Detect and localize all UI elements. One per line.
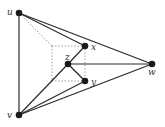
- edge-u-x: [19, 13, 85, 46]
- node-u: [16, 10, 23, 17]
- node-y: [82, 78, 89, 85]
- graph-diagram: u v w x z y: [0, 0, 165, 127]
- edge-v-y: [19, 81, 85, 115]
- node-label-w: w: [148, 67, 156, 77]
- edge-v-z: [19, 64, 68, 115]
- edge-v-w: [19, 64, 152, 115]
- node-label-v: v: [7, 110, 12, 120]
- guide-u-to-box-corner: [19, 13, 52, 46]
- node-label-y: y: [90, 77, 97, 87]
- node-label-u: u: [7, 7, 13, 17]
- node-v: [16, 112, 23, 119]
- node-label-x: x: [91, 42, 96, 52]
- edge-z-x: [68, 46, 85, 64]
- node-x: [82, 43, 89, 50]
- node-label-z: z: [64, 52, 70, 62]
- edge-u-w: [19, 13, 152, 64]
- edge-z-y: [68, 64, 85, 81]
